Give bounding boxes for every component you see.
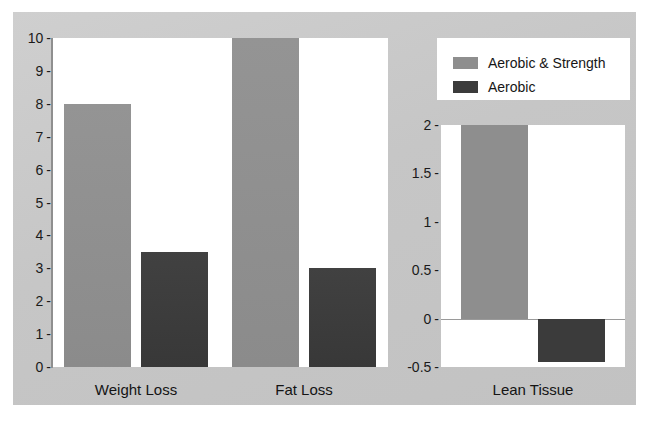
left-y-tick-label: 5- [36, 196, 51, 210]
category-label-lean-tissue: Lean Tissue [443, 380, 623, 400]
chart-panel-background: 0-1-2-3-4-5-6-7-8-9-10- -0.5-0-0.5-1-1.5… [13, 12, 636, 405]
category-label-fat-loss: Fat Loss [214, 380, 394, 400]
bar-weight-loss-aerobic-strength [64, 104, 131, 367]
left-y-tick-label: 7- [36, 130, 51, 144]
left-y-tick-label: 3- [36, 261, 51, 275]
bar-weight-loss-aerobic [141, 252, 208, 367]
chart-figure: 0-1-2-3-4-5-6-7-8-9-10- -0.5-0-0.5-1-1.5… [0, 0, 649, 427]
left-y-tick-label: 2- [36, 294, 51, 308]
legend-swatch-icon [453, 57, 478, 69]
right-y-tick-label: 1- [424, 215, 439, 229]
right-plot-area [441, 125, 625, 367]
legend-item[interactable]: Aerobic & Strength [453, 55, 606, 71]
bar-fat-loss-aerobic [309, 268, 376, 367]
category-label-weight-loss: Weight Loss [46, 380, 226, 400]
legend-item[interactable]: Aerobic [453, 79, 535, 95]
left-y-tick-label: 1- [36, 327, 51, 341]
left-y-axis-line [51, 38, 53, 368]
left-y-tick-label: 8- [36, 97, 51, 111]
right-y-tick-label: 1.5- [412, 166, 439, 180]
legend-label: Aerobic [488, 79, 535, 95]
legend-label: Aerobic & Strength [488, 55, 606, 71]
bar-fat-loss-aerobic-strength [232, 38, 299, 367]
legend-swatch-icon [453, 81, 478, 93]
right-y-tick-label: 2- [424, 118, 439, 132]
chart-legend: Aerobic & StrengthAerobic [437, 38, 630, 100]
right-y-tick-label: -0.5- [407, 360, 439, 374]
left-y-tick-label: 4- [36, 228, 51, 242]
left-y-tick-label: 0- [36, 360, 51, 374]
bar-lean-tissue-aerobic [538, 319, 605, 363]
right-y-axis-ticks: -0.5-0-0.5-1-1.5-2- [393, 125, 439, 375]
left-y-tick-label: 10- [28, 31, 51, 45]
right-y-tick-label: 0- [424, 312, 439, 326]
right-y-tick-label: 0.5- [412, 263, 439, 277]
left-y-tick-label: 6- [36, 163, 51, 177]
left-y-axis-ticks: 0-1-2-3-4-5-6-7-8-9-10- [13, 12, 51, 405]
left-y-tick-label: 9- [36, 64, 51, 78]
bar-lean-tissue-aerobic-strength [461, 125, 528, 319]
left-plot-area [52, 38, 388, 367]
